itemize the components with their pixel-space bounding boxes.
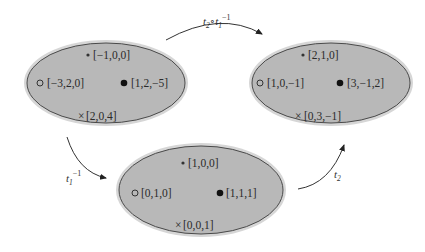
filled-circle-marker bbox=[121, 80, 128, 87]
point-label: [2,0,4] bbox=[86, 110, 117, 123]
star-dot-marker bbox=[181, 161, 184, 164]
filled-circle-marker bbox=[217, 190, 224, 197]
point-label: [1,0,−1] bbox=[267, 77, 304, 90]
arrow-label-top: t2∘t1−1 bbox=[203, 13, 231, 30]
arrow-label-left: t1−1 bbox=[66, 169, 81, 187]
point-label: [−1,0,0] bbox=[93, 49, 130, 62]
diagram: [−1,0,0] [−3,2,0] [1,2,−5] × [2,0,4] [2,… bbox=[0, 0, 425, 252]
point-label: [−3,2,0] bbox=[47, 77, 84, 90]
set-right: [2,1,0] [1,0,−1] [3,−1,2] × [0,3,−1] bbox=[249, 40, 413, 126]
point-label: [3,−1,2] bbox=[347, 77, 384, 90]
point-label: [0,3,−1] bbox=[304, 110, 341, 123]
star-dot-marker bbox=[86, 53, 89, 56]
cross-marker: × bbox=[78, 110, 85, 122]
point-label: [2,1,0] bbox=[308, 49, 339, 62]
arrow-label-right: t2 bbox=[334, 168, 341, 183]
point-label: [1,1,1] bbox=[226, 187, 257, 200]
cross-marker: × bbox=[295, 110, 302, 122]
set-bottom: [1,0,0] [0,1,0] [1,1,1] × [0,0,1] bbox=[116, 143, 286, 237]
set-left: [−1,0,0] [−3,2,0] [1,2,−5] × [2,0,4] bbox=[24, 40, 188, 126]
point-label: [0,1,0] bbox=[141, 187, 172, 200]
cross-marker: × bbox=[175, 219, 182, 231]
point-label: [1,2,−5] bbox=[131, 77, 168, 90]
point-label: [0,0,1] bbox=[183, 219, 214, 232]
star-dot-marker bbox=[301, 53, 304, 56]
point-label: [1,0,0] bbox=[188, 157, 219, 170]
filled-circle-marker bbox=[337, 80, 344, 87]
